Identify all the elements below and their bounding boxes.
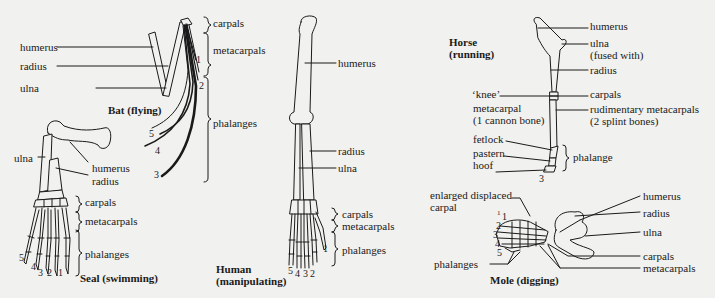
seal-carpals-label: carpals (85, 196, 116, 208)
bat-digit-5: 5 (149, 129, 154, 139)
bat-skeleton-drawing (57, 17, 211, 182)
horse-humerus-label: humerus (590, 20, 628, 32)
human-digit-1: 1 (323, 244, 328, 254)
bat-ulna-label: ulna (20, 82, 39, 94)
seal-title: Seal (swimming) (80, 272, 158, 284)
horse-phalange-label: phalange (573, 151, 613, 163)
human-title-line1: Human (216, 263, 251, 275)
human-radius-label: radius (338, 145, 365, 157)
bat-digit-1: 1 (196, 55, 201, 65)
mole-enlarged-carpal-label-line1: enlarged displaced (430, 189, 512, 201)
horse-cannon-bone-label: (1 cannon bone) (473, 114, 544, 126)
human-digit-3: 3 (303, 269, 308, 279)
mole-phalanges-label: phalanges (434, 258, 478, 270)
human-digit-5: 5 (288, 266, 293, 276)
human-metacarpals-label: metacarpals (342, 220, 395, 232)
bat-radius-label: radius (20, 60, 47, 72)
horse-carpals-label: carpals (590, 88, 621, 100)
mole-title: Mole (digging) (490, 274, 559, 286)
horse-knee-label: ‘knee’ (472, 88, 500, 100)
bat-digit-4: 4 (155, 146, 160, 156)
seal-digit-1: 1 (58, 268, 63, 278)
bat-digit-3: 3 (154, 170, 159, 180)
mole-digit-1-small: 1 (497, 208, 501, 218)
human-humerus-label: humerus (338, 57, 376, 69)
human-title-line2: (manipulating) (216, 275, 286, 287)
horse-pastern-label: pastern (473, 147, 505, 159)
human-ulna-label: ulna (338, 162, 357, 174)
bat-phalanges-label: phalanges (213, 117, 257, 129)
seal-humerus-label: humerus (92, 162, 130, 174)
bat-metacarpals-label: metacarpals (213, 44, 266, 56)
horse-skeleton-drawing (496, 17, 588, 172)
bat-digit-2: 2 (199, 81, 204, 91)
horse-ulna-label: ulna (590, 37, 609, 49)
seal-ulna-label: ulna (14, 152, 33, 164)
seal-digit-4: 4 (31, 262, 36, 272)
seal-digit-2: 2 (47, 268, 52, 278)
mole-enlarged-carpal-label-line2: carpal (430, 201, 457, 213)
horse-title-line1: Horse (449, 36, 477, 48)
bat-title: Bat (flying) (108, 104, 161, 116)
bat-carpals-label: carpals (213, 17, 244, 29)
horse-fused-with-label: (fused with) (590, 49, 643, 61)
homologous-forelimbs-figure: humerus radius ulna Bat (flying) carpals… (0, 0, 715, 298)
seal-digit-5: 5 (19, 253, 24, 263)
horse-metacarpal-label: metacarpal (473, 102, 521, 114)
horse-radius-label: radius (590, 64, 617, 76)
horse-rudimentary-metacarpals-label: rudimentary metacarpals (590, 103, 699, 115)
seal-phalanges-label: phalanges (85, 248, 129, 260)
mole-humerus-label: humerus (643, 190, 681, 202)
human-carpals-label: carpals (342, 208, 373, 220)
mole-radius-label: radius (643, 207, 670, 219)
horse-hoof-label: hoof (473, 159, 493, 171)
human-digit-2: 2 (310, 269, 315, 279)
horse-title-line2: (running) (449, 48, 494, 60)
mole-digit-5: 5 (497, 248, 502, 258)
human-digit-4: 4 (295, 269, 300, 279)
seal-metacarpals-label: metacarpals (85, 215, 138, 227)
bat-humerus-label: humerus (20, 41, 58, 53)
horse-splint-bones-label: (2 splint bones) (590, 115, 658, 127)
mole-ulna-label: ulna (643, 226, 662, 238)
mole-skeleton-drawing (490, 196, 640, 268)
seal-digit-3: 3 (38, 268, 43, 278)
horse-fetlock-label: fetlock (473, 133, 504, 145)
seal-radius-label: radius (92, 175, 119, 187)
human-phalanges-label: phalanges (342, 244, 386, 256)
human-skeleton-drawing (289, 16, 338, 268)
mole-digit-1: 1 (502, 212, 507, 222)
horse-digit-3: 3 (539, 174, 544, 184)
mole-carpals-label: carpals (643, 250, 674, 262)
mole-metacarpals-label: metacarpals (643, 262, 696, 274)
